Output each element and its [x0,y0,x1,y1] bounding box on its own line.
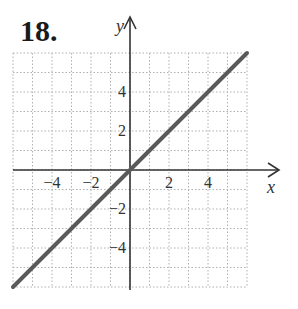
y-tick-label: −2 [109,200,126,217]
x-tick-label: 4 [204,174,212,191]
x-tick-label: −4 [43,174,60,191]
x-tick-label: −2 [82,174,99,191]
y-tick-label: 4 [118,83,126,100]
y-tick-label: −4 [109,239,126,256]
y-tick-label: 2 [118,122,126,139]
coordinate-plane: yx−4−22442−2−4 [0,0,298,309]
x-axis-label: x [266,177,275,197]
x-tick-label: 2 [165,174,173,191]
y-axis-label: y [114,16,124,36]
